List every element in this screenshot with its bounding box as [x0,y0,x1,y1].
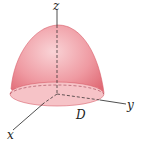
paraboloid-diagram: z y x D [0,0,141,149]
x-axis-solid [13,103,44,130]
x-axis-label: x [7,128,14,142]
y-axis-label: y [126,98,134,112]
z-axis-label: z [52,0,60,13]
y-axis-solid [100,100,126,104]
region-d-label: D [75,108,86,122]
